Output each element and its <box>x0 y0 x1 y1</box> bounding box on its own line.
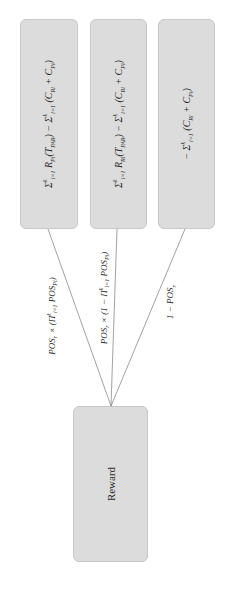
edge-outcome-2 <box>111 229 117 406</box>
edge-label-outcome-2: POSr × (1 − Πki=1 POSPi) <box>98 252 111 344</box>
outcome-1-formula: Σki=1 RPi(TPAR) − Σki=1 (CRi + CPi) <box>42 60 55 188</box>
edge-label-outcome-1: POSr × (Πki=1 POSPi) <box>46 277 59 354</box>
edge-label-outcome-3: 1 − POSr <box>165 285 177 319</box>
outcome-3-formula: − Σki=1 (CRi + CPi) <box>180 88 193 160</box>
reward-label: Reward <box>105 467 117 501</box>
outcome-2-formula: Σki=1 RRi(TPAR) − Σki=1 (CRi + CPi) <box>112 60 125 188</box>
outcome-node-2: Σki=1 RRi(TPAR) − Σki=1 (CRi + CPi) <box>90 19 147 229</box>
outcome-node-1: Σki=1 RPi(TPAR) − Σki=1 (CRi + CPi) <box>20 19 78 229</box>
reward-node: Reward <box>73 406 148 562</box>
outcome-node-3: − Σki=1 (CRi + CPi) <box>158 19 215 229</box>
